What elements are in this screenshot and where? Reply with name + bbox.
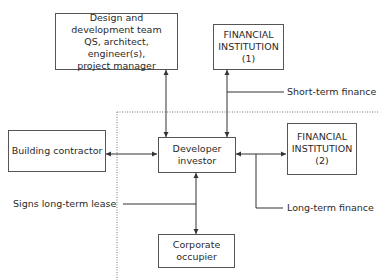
fi1-line-2: INSTITUTION <box>218 41 279 53</box>
fi1-line-3: (1) <box>242 53 255 65</box>
design-team-line-3: QS, architect, engineer(s), <box>56 36 177 60</box>
design-team-line-1: Design and <box>90 12 144 24</box>
developer-line-2: investor <box>178 155 217 167</box>
design-team-line-2: development team <box>71 24 161 36</box>
fi2-line-3: (2) <box>315 155 328 167</box>
node-building-contractor: Building contractor <box>8 130 106 172</box>
node-design-team: Design and development team QS, architec… <box>55 13 178 70</box>
node-corporate-occupier: Corporate occupier <box>158 234 235 268</box>
label-short-term-finance: Short-term finance <box>287 86 376 98</box>
fi2-line-2: INSTITUTION <box>292 143 353 155</box>
developer-line-1: Developer <box>173 143 222 155</box>
occupier-line-2: occupier <box>176 251 217 263</box>
fi1-line-1: FINANCIAL <box>223 29 273 41</box>
occupier-line-1: Corporate <box>173 239 221 251</box>
fi2-line-1: FINANCIAL <box>297 131 347 143</box>
node-financial-institution-2: FINANCIAL INSTITUTION (2) <box>287 123 357 175</box>
label-signs-long-term-lease: Signs long-term lease <box>13 198 116 210</box>
contractor-line-1: Building contractor <box>12 145 103 157</box>
label-long-term-finance: Long-term finance <box>287 202 374 214</box>
design-team-line-4: project manager <box>77 60 156 72</box>
node-financial-institution-1: FINANCIAL INSTITUTION (1) <box>213 24 284 70</box>
node-developer-investor: Developer investor <box>158 137 236 173</box>
